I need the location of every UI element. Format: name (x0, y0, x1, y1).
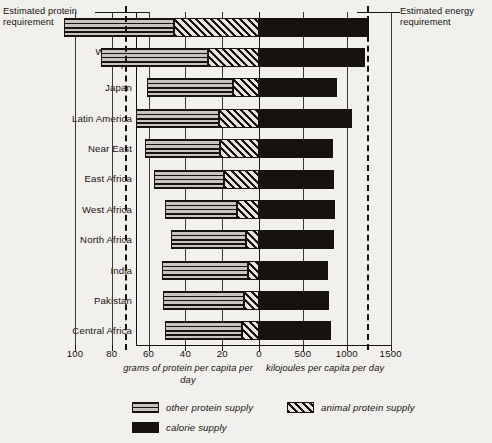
bar-row (136, 18, 392, 37)
bar-segment-other-protein (171, 230, 246, 249)
bar-segment-calorie (259, 200, 335, 219)
bar-segment-other-protein (136, 109, 219, 128)
category-label: Central Africa (72, 325, 132, 336)
bar-segment-other-protein (145, 139, 220, 158)
bar-segment-calorie (259, 78, 337, 97)
bar-segment-animal-protein (208, 48, 260, 67)
bar-row (136, 139, 392, 158)
bar-segment-other-protein (162, 261, 249, 280)
x-tick-label-protein-20: 20 (217, 348, 228, 359)
axis-title-energy: kilojoules per capita per day (266, 363, 436, 375)
legend-label-other-protein: other protein supply (166, 402, 253, 414)
bar-segment-calorie (259, 170, 334, 189)
bar-segment-calorie (259, 48, 365, 67)
x-tick-label-energy-1000: 1000 (336, 348, 358, 359)
bar-segment-animal-protein (174, 18, 259, 37)
x-tick-label-protein-40: 40 (180, 348, 191, 359)
legend-swatch-animal-protein-icon (287, 402, 314, 413)
annotation-energy-requirement: Estimated energy requirement (400, 6, 474, 28)
bar-segment-animal-protein (233, 78, 259, 97)
bar-segment-calorie (259, 261, 328, 280)
bar-row (136, 230, 392, 249)
plot-area (136, 12, 392, 346)
bar-segment-animal-protein (237, 200, 259, 219)
category-label: India (110, 265, 132, 276)
axis-line-bottom (136, 345, 392, 346)
x-tick-label-energy-500: 500 (295, 348, 312, 359)
x-tick-label-energy-1500: 1500 (380, 348, 402, 359)
bar-row (136, 170, 392, 189)
chart-figure: Estimated protein requirement Estimated … (0, 0, 492, 443)
chart-legend: other protein supply animal protein supp… (0, 398, 492, 443)
bar-segment-animal-protein (248, 261, 259, 280)
bar-segment-animal-protein (244, 291, 259, 310)
category-label: Latin America (72, 113, 132, 124)
bar-segment-animal-protein (219, 109, 260, 128)
bar-segment-calorie (259, 109, 352, 128)
bar-segment-calorie (259, 321, 331, 340)
bar-segment-other-protein (154, 170, 224, 189)
bar-segment-other-protein (165, 321, 242, 340)
bar-row (136, 200, 392, 219)
bar-row (136, 291, 392, 310)
bar-segment-other-protein (101, 48, 208, 67)
bar-segment-calorie (259, 139, 333, 158)
x-tick-label-protein-0: 0 (256, 348, 262, 359)
x-tick-label-protein-80: 80 (106, 348, 117, 359)
bar-row (136, 261, 392, 280)
bar-segment-calorie (259, 18, 369, 37)
bar-row (136, 78, 392, 97)
bar-segment-other-protein (165, 200, 237, 219)
bar-segment-calorie (259, 291, 329, 310)
legend-swatch-calorie-icon (132, 422, 159, 433)
bar-segment-animal-protein (246, 230, 259, 249)
bar-segment-calorie (259, 230, 334, 249)
bar-segment-other-protein (147, 78, 234, 97)
bar-segment-animal-protein (224, 170, 259, 189)
x-tick-label-protein-100: 100 (67, 348, 84, 359)
bar-row (136, 321, 392, 340)
bar-segment-other-protein (64, 18, 174, 37)
bar-segment-other-protein (163, 291, 244, 310)
bar-row (136, 109, 392, 128)
legend-swatch-other-protein-icon (132, 402, 159, 413)
gridline-protein-100 (75, 12, 76, 345)
category-label: Japan (105, 82, 132, 93)
bar-segment-animal-protein (242, 321, 259, 340)
bar-segment-animal-protein (220, 139, 259, 158)
x-tick-label-protein-60: 60 (143, 348, 154, 359)
legend-label-animal-protein: animal protein supply (321, 402, 415, 414)
axis-title-protein: grams of protein per capita per day (118, 363, 258, 386)
legend-label-calorie: calorie supply (166, 422, 227, 434)
bar-row (136, 48, 392, 67)
reference-line-protein (125, 6, 127, 350)
reference-line-energy (367, 6, 369, 350)
